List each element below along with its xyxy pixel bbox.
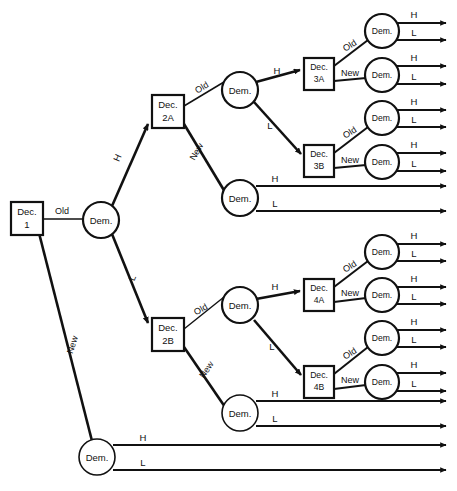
terminal-label-h: H: [272, 388, 279, 399]
edge-label-dec3a-new: New: [341, 68, 360, 78]
edge-label-dec2a-old: Old: [193, 80, 210, 96]
chance-node-dem-4a-old[interactable]: Dem.: [365, 235, 399, 269]
chance-nodes: Dem. Dem. Dem. Dem. Dem. Dem. Dem. Dem.: [79, 14, 399, 475]
chance-node-dem-3a-old[interactable]: Dem.: [365, 14, 399, 48]
chance-node-label: Dem.: [372, 70, 393, 80]
terminal-label-h: H: [411, 9, 418, 20]
edge-dec4b-new: [334, 385, 366, 389]
chance-node-label: Dem.: [372, 26, 393, 36]
edge-label-dec4b-old: Old: [341, 346, 358, 362]
edges-dec4: [334, 261, 368, 389]
chance-node-label: Dem.: [372, 157, 393, 167]
terminal-label-h: H: [411, 139, 418, 150]
chance-node-dem-3b-old[interactable]: Dem.: [365, 101, 399, 135]
edge-dem2aold-l: [254, 102, 301, 154]
chance-node-label: Dem.: [229, 300, 252, 311]
chance-node-dem-2b-new[interactable]: Dem.: [222, 395, 258, 431]
edges-dec2a: [184, 82, 225, 192]
terminal-label-h: H: [411, 96, 418, 107]
decision-node-dec2a[interactable]: Dec. 2A: [152, 95, 184, 128]
edge-dem2bold-l: [254, 320, 301, 375]
terminal-label-l: L: [411, 378, 416, 389]
terminal-label-l: L: [411, 291, 416, 302]
decision-node-label-line2: 3B: [314, 161, 325, 171]
decision-node-label-line1: Dec.: [17, 206, 37, 217]
edge-dec3b-new: [334, 165, 366, 168]
chance-node-dem-3b-new[interactable]: Dem.: [365, 145, 399, 179]
decision-node-label-line2: 1: [24, 219, 29, 230]
terminal-label-l: L: [411, 248, 416, 259]
chance-node-dem-2a-new[interactable]: Dem.: [222, 180, 258, 216]
edge-label-dem2aold-h: H: [274, 65, 281, 76]
edge-label-dem2bold-l: L: [269, 341, 274, 352]
terminal-label-l: L: [272, 413, 277, 424]
chance-node-label: Dem.: [372, 377, 393, 387]
decision-node-dec3b[interactable]: Dec. 3B: [304, 145, 334, 177]
edge-label-dec4a-old: Old: [341, 259, 358, 275]
terminal-label-h: H: [140, 432, 147, 443]
terminal-label-l: L: [411, 71, 416, 82]
edges-dec3: [334, 40, 368, 168]
chance-node-label: Dem.: [86, 452, 109, 463]
terminal-label-h: H: [411, 273, 418, 284]
chance-node-dem-4b-old[interactable]: Dem.: [365, 321, 399, 355]
terminal-label-l: L: [411, 27, 416, 38]
decision-node-label-line2: 4B: [314, 382, 325, 392]
terminal-label-h: H: [272, 173, 279, 184]
terminal-label-h: H: [411, 316, 418, 327]
chance-node-label: Dem.: [229, 193, 252, 204]
decision-node-label-line2: 2A: [162, 112, 174, 123]
edge-label-dec2a-new: New: [188, 141, 206, 162]
decision-node-label-line2: 3A: [314, 74, 325, 84]
edge-label-root-l: L: [126, 273, 138, 282]
decision-node-dec4b[interactable]: Dec. 4B: [304, 366, 334, 398]
terminal-label-l: L: [411, 334, 416, 345]
chance-node-dem-2a-old[interactable]: Dem.: [222, 72, 258, 108]
edge-label-dec2b-new: New: [197, 359, 216, 380]
edge-label-dem2bold-h: H: [272, 281, 279, 292]
decision-node-label-line1: Dec.: [158, 99, 178, 110]
terminal-label-h: H: [411, 52, 418, 63]
edge-root-h: [112, 124, 148, 206]
edge-dec1-new: [39, 233, 92, 441]
chance-node-dem-3a-new[interactable]: Dem.: [365, 58, 399, 92]
terminal-label-l: L: [411, 158, 416, 169]
terminal-label-l: L: [140, 457, 145, 468]
decision-node-label-line2: 2B: [162, 335, 174, 346]
edge-dec4a-new: [334, 298, 366, 302]
edge-label-dec1-old: Old: [55, 206, 69, 216]
decision-node-label-line1: Dec.: [310, 62, 328, 72]
decision-node-dec2b[interactable]: Dec. 2B: [152, 318, 184, 351]
edge-label-dec4a-new: New: [341, 288, 360, 298]
edge-label-dec3b-new: New: [341, 155, 360, 165]
chance-node-label: Dem.: [372, 333, 393, 343]
edge-label-root-h: H: [111, 152, 124, 163]
edge-label-dec4b-new: New: [341, 375, 360, 385]
edges-dec2b: [184, 297, 225, 407]
decision-node-dec1[interactable]: Dec. 1: [11, 202, 43, 235]
edge-label-dec1-new: New: [65, 334, 80, 355]
chance-node-label: Dem.: [372, 247, 393, 257]
chance-node-dem-4b-new[interactable]: Dem.: [365, 365, 399, 399]
edge-label-dec3b-old: Old: [341, 125, 358, 141]
decision-node-label-line1: Dec.: [310, 149, 328, 159]
decision-nodes: Dec. 1 Dec. 2A Dec. 2B Dec. 3A Dec. 3B D…: [11, 58, 334, 398]
decision-node-dec4a[interactable]: Dec. 4A: [304, 279, 334, 311]
edge-dem2bold-h: [256, 291, 300, 299]
chance-node-dem-4a-new[interactable]: Dem.: [365, 278, 399, 312]
terminal-label-l: L: [411, 114, 416, 125]
chance-node-dem-2b-old[interactable]: Dem.: [222, 287, 258, 323]
edge-label-dec3a-old: Old: [341, 38, 358, 54]
chance-node-label: Dem.: [229, 85, 252, 96]
decision-node-label-line2: 4A: [314, 295, 325, 305]
edges-dem2b-old: [254, 291, 301, 375]
edge-label-dem2aold-l: L: [267, 120, 272, 131]
decision-tree-diagram: Dem. Dem. Dem. Dem. Dem. Dem. Dem. Dem.: [0, 0, 457, 491]
decision-node-dec3a[interactable]: Dec. 3A: [304, 58, 334, 90]
chance-node-label: Dem.: [229, 408, 252, 419]
decision-node-label-line1: Dec.: [158, 322, 178, 333]
chance-node-label: Dem.: [372, 290, 393, 300]
chance-node-dem-root[interactable]: Dem.: [83, 202, 119, 238]
terminal-label-h: H: [411, 359, 418, 370]
chance-node-dem-dec1-new[interactable]: Dem.: [79, 439, 115, 475]
